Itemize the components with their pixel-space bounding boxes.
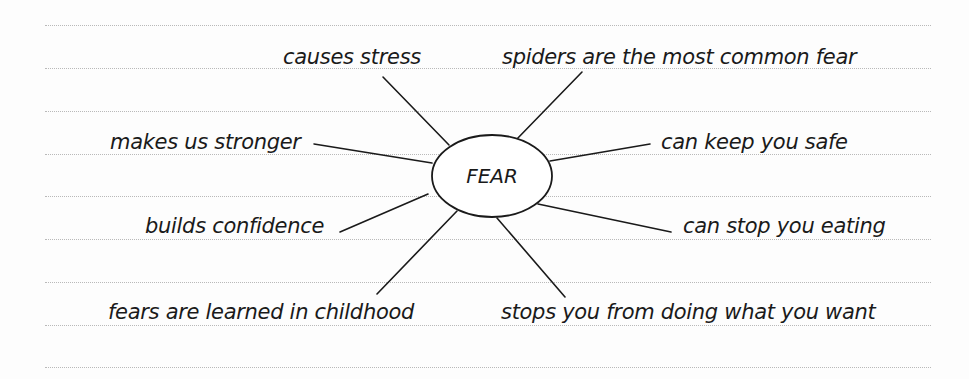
center-node-label: FEAR	[466, 166, 518, 186]
connector-line-can-keep-you-safe	[550, 144, 650, 161]
connector-line-causes-stress	[383, 77, 449, 145]
branch-label-fears-learned-childhood: fears are learned in childhood	[108, 302, 414, 323]
branch-label-builds-confidence: builds confidence	[145, 216, 324, 237]
branch-label-spiders-common-fear: spiders are the most common fear	[502, 47, 856, 68]
connector-line-builds-confidence	[340, 194, 428, 232]
connector-line-can-stop-you-eating	[538, 204, 671, 232]
branch-label-causes-stress: causes stress	[283, 47, 421, 68]
branch-label-can-stop-you-eating: can stop you eating	[683, 216, 886, 237]
connector-line-spiders-common-fear	[516, 72, 582, 140]
mind-map-canvas: FEAR causes stressspiders are the most c…	[0, 0, 969, 379]
branch-label-can-keep-you-safe: can keep you safe	[661, 132, 848, 153]
branch-label-stops-you-doing-what-you-want: stops you from doing what you want	[501, 302, 875, 323]
connector-line-makes-us-stronger	[314, 144, 432, 163]
branch-label-makes-us-stronger: makes us stronger	[110, 132, 301, 153]
connector-line-fears-learned-childhood	[377, 211, 457, 294]
connector-line-stops-you-doing-what-you-want	[497, 218, 565, 297]
